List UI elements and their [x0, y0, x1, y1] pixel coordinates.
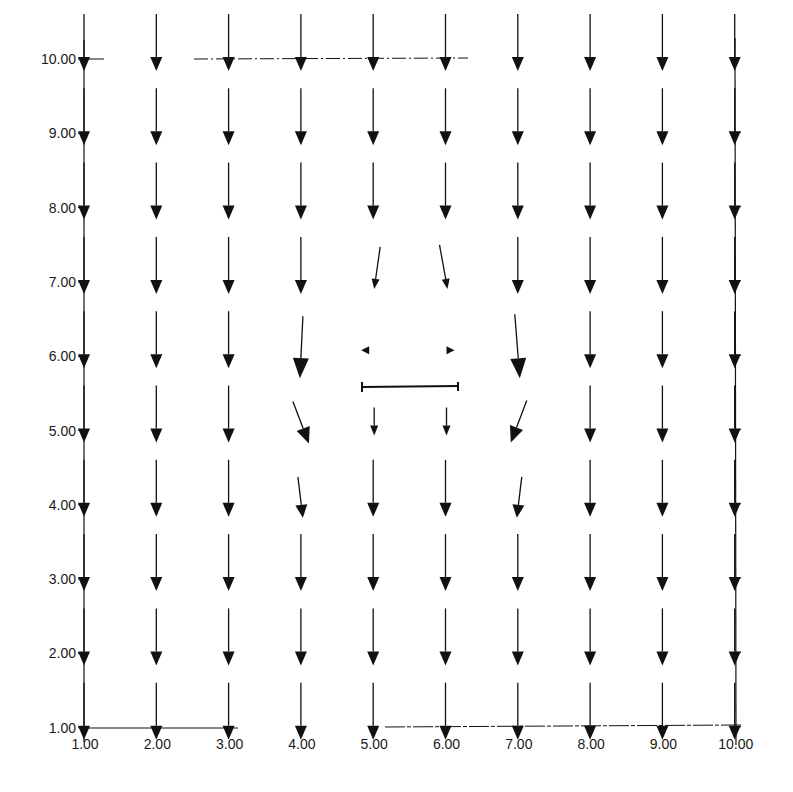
vector-arrow — [584, 683, 596, 740]
arrow-head-icon — [367, 57, 379, 71]
vector-arrow — [656, 237, 668, 294]
arrow-head-icon — [150, 57, 162, 71]
plate-line — [362, 386, 458, 387]
arrow-head-icon — [584, 280, 596, 294]
arrow-head-icon — [656, 651, 668, 665]
vector-arrow — [223, 460, 235, 517]
vector-arrow — [367, 14, 379, 71]
arrow-head-icon — [150, 206, 162, 220]
arrow-head-icon — [729, 577, 741, 591]
arrow-head-icon — [656, 57, 668, 71]
arrow-head-icon — [584, 651, 596, 665]
y-tick-label: 5.00 — [49, 423, 76, 439]
vector-arrow — [78, 683, 90, 740]
vector-arrow — [150, 237, 162, 294]
vector-arrow — [367, 88, 379, 145]
arrow-head-icon — [295, 577, 307, 591]
vector-arrow — [512, 88, 524, 145]
arrow-head-icon — [729, 131, 741, 145]
vector-arrow — [729, 460, 741, 517]
top-border-line — [194, 58, 468, 59]
vector-arrow — [295, 14, 307, 71]
arrow-head-icon — [440, 577, 452, 591]
arrow-head-icon — [361, 346, 369, 354]
arrow-head-icon — [150, 503, 162, 517]
arrow-head-icon — [656, 354, 668, 368]
axes-frame — [78, 38, 743, 745]
arrow-head-icon — [78, 651, 90, 665]
vector-field-plot: 1.002.003.004.005.006.007.008.009.0010.0… — [0, 0, 793, 792]
arrow-head-icon — [150, 354, 162, 368]
vector-arrow — [584, 237, 596, 294]
x-tick-label: 5.00 — [361, 736, 388, 752]
vector-arrow — [584, 14, 596, 71]
vector-arrow — [223, 311, 235, 368]
vector-arrow — [150, 608, 162, 665]
vector-arrow — [656, 311, 668, 368]
vector-arrow — [223, 14, 235, 71]
x-tick-label: 6.00 — [433, 736, 460, 752]
arrow-shaft — [376, 247, 381, 279]
arrow-head-icon — [78, 429, 90, 443]
vector-arrow — [295, 534, 307, 591]
x-tick-label: 8.00 — [577, 736, 604, 752]
x-tick-label: 3.00 — [216, 736, 243, 752]
vector-arrow — [150, 14, 162, 71]
arrow-head-icon — [584, 429, 596, 443]
arrow-head-icon — [584, 577, 596, 591]
vector-arrow — [78, 460, 90, 517]
arrow-shaft — [293, 402, 303, 429]
vector-arrow — [584, 163, 596, 220]
vector-arrow — [78, 386, 90, 443]
vector-arrow — [295, 608, 307, 665]
arrow-head-icon — [656, 206, 668, 220]
vector-arrow — [78, 163, 90, 220]
vector-arrow — [440, 88, 452, 145]
arrow-head-icon — [223, 131, 235, 145]
vector-arrow — [584, 608, 596, 665]
vector-arrow — [150, 311, 162, 368]
y-tick-label: 4.00 — [49, 497, 76, 513]
arrow-head-icon — [150, 131, 162, 145]
vector-arrow — [656, 14, 668, 71]
arrow-head-icon — [584, 57, 596, 71]
y-tick-label: 2.00 — [49, 645, 76, 661]
arrow-head-icon — [367, 651, 379, 665]
arrow-head-icon — [372, 278, 380, 288]
vector-arrows — [78, 14, 741, 740]
arrow-head-icon — [367, 577, 379, 591]
vector-arrow — [656, 683, 668, 740]
vector-arrow — [440, 460, 452, 517]
arrow-head-icon — [512, 57, 524, 71]
arrow-head-icon — [440, 57, 452, 71]
vector-arrow — [295, 683, 307, 740]
vector-arrow — [656, 163, 668, 220]
vector-arrow — [150, 163, 162, 220]
arrow-head-icon — [729, 354, 741, 368]
vector-arrow — [78, 311, 90, 368]
vector-arrow — [370, 408, 378, 436]
arrow-head-icon — [297, 426, 310, 443]
y-tick-label: 6.00 — [49, 348, 76, 364]
arrow-head-icon — [293, 358, 309, 378]
vector-arrow — [223, 88, 235, 145]
arrow-head-icon — [295, 131, 307, 145]
arrow-head-icon — [150, 280, 162, 294]
vector-arrow — [584, 88, 596, 145]
arrow-head-icon — [367, 131, 379, 145]
vector-arrow — [150, 534, 162, 591]
y-tick-label: 7.00 — [49, 274, 76, 290]
arrow-head-icon — [78, 57, 90, 71]
vector-arrow — [295, 88, 307, 145]
vector-arrow — [512, 163, 524, 220]
arrow-head-icon — [295, 504, 307, 518]
vector-arrow — [447, 346, 455, 354]
arrow-head-icon — [367, 503, 379, 517]
vector-arrow — [512, 608, 524, 665]
x-tick-label: 7.00 — [505, 736, 532, 752]
vector-arrow — [150, 88, 162, 145]
arrow-head-icon — [223, 280, 235, 294]
vector-arrow — [729, 163, 741, 220]
arrow-head-icon — [440, 503, 452, 517]
vector-arrow — [729, 14, 741, 71]
